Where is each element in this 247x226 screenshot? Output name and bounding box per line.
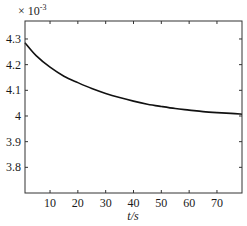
multiplier-exponent: -3 [40, 3, 47, 12]
line-chart: 10203040506070 3.83.944.14.24.3 × 10-3 t… [0, 0, 247, 226]
x-tick-label: 20 [72, 196, 84, 210]
x-tick-label: 70 [211, 196, 223, 210]
x-tick-label: 50 [155, 196, 167, 210]
x-tick-label: 30 [100, 196, 112, 210]
data-curve [25, 43, 242, 114]
y-tick-label: 3.8 [6, 160, 21, 174]
multiplier-base: × 10 [18, 4, 40, 18]
axis-ticks [25, 21, 242, 193]
x-tick-label: 40 [128, 196, 140, 210]
x-tick-label: 10 [44, 196, 56, 210]
y-tick-label: 4.1 [6, 83, 21, 97]
y-tick-label: 3.9 [6, 135, 21, 149]
y-tick-label: 4.3 [6, 32, 21, 46]
axes-frame [25, 21, 242, 193]
x-tick-labels: 10203040506070 [44, 196, 223, 210]
x-tick-label: 60 [183, 196, 195, 210]
x-axis-label: t/s [127, 209, 139, 223]
y-tick-label: 4 [15, 109, 21, 123]
y-tick-labels: 3.83.944.14.24.3 [6, 32, 21, 174]
y-tick-label: 4.2 [6, 58, 21, 72]
y-multiplier-label: × 10-3 [18, 3, 46, 18]
